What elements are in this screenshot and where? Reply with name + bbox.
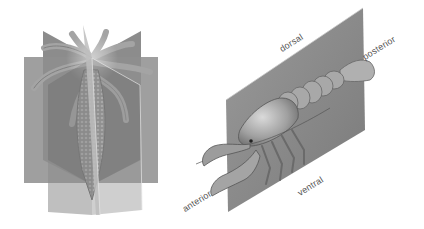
crayfish-eye bbox=[249, 139, 253, 143]
bilateral-symmetry-figure bbox=[196, 8, 375, 212]
radial-symmetry-figure bbox=[24, 25, 158, 215]
symmetry-plane-front bbox=[48, 58, 92, 215]
